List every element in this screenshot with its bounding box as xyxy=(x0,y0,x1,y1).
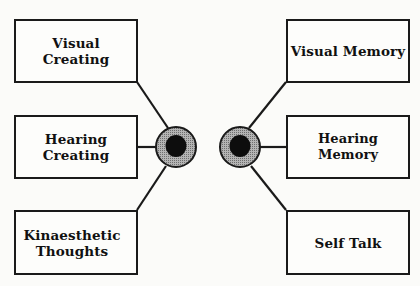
box-hearing-memory: Hearing Memory xyxy=(286,115,410,179)
box-label: Visual Memory xyxy=(291,43,405,59)
eye-circle-left-icon xyxy=(156,127,196,167)
connector-self-talk xyxy=(251,166,286,210)
connector-kinaesthetic-thoughts xyxy=(137,166,166,210)
box-label: Visual Creating xyxy=(43,35,110,67)
box-kinaesthetic-thoughts: Kinaesthetic Thoughts xyxy=(14,210,138,275)
box-visual-creating: Visual Creating xyxy=(14,19,138,83)
box-visual-memory: Visual Memory xyxy=(286,19,410,83)
box-label: Hearing Memory xyxy=(288,131,408,163)
box-self-talk: Self Talk xyxy=(286,210,410,275)
box-label: Hearing Creating xyxy=(43,131,110,163)
box-hearing-creating: Hearing Creating xyxy=(14,115,138,179)
box-label: Kinaesthetic Thoughts xyxy=(23,227,128,259)
eye-accessing-cues-diagram: Visual Creating Hearing Creating Kinaest… xyxy=(0,0,420,286)
eye-circle-right-icon xyxy=(220,127,260,167)
box-label: Self Talk xyxy=(315,235,382,251)
connector-visual-creating xyxy=(137,82,168,128)
connector-visual-memory xyxy=(249,82,286,128)
